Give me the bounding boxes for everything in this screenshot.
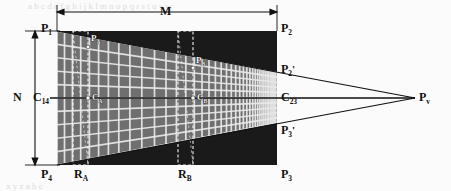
label-RB: RB bbox=[178, 168, 191, 183]
label-N: N bbox=[13, 91, 22, 103]
label-C23: C23 bbox=[281, 91, 297, 106]
point-PA bbox=[86, 45, 90, 49]
label-PB: PB bbox=[196, 56, 205, 67]
label-PA: PA bbox=[91, 34, 100, 45]
point-CA bbox=[86, 96, 90, 100]
label-CB: CB bbox=[197, 93, 207, 104]
point-CB bbox=[191, 96, 195, 100]
label-P3-prime: P3' bbox=[281, 124, 295, 139]
label-CA: CA bbox=[92, 93, 102, 104]
point-PB bbox=[191, 66, 195, 70]
label-P1: P1 bbox=[41, 22, 52, 37]
label-C14: C14 bbox=[33, 91, 49, 106]
label-Pv: Pv bbox=[419, 91, 430, 106]
label-P2-prime: P2' bbox=[281, 63, 295, 78]
label-RA: RA bbox=[74, 168, 88, 183]
label-P2: P2 bbox=[281, 22, 292, 37]
figure-canvas bbox=[0, 0, 451, 191]
label-M: M bbox=[160, 5, 171, 17]
label-P3: P3 bbox=[281, 168, 292, 183]
perspective-grid-figure: a b c d e f g h i j k l m n o p q r s t … bbox=[0, 0, 451, 191]
label-P4: P4 bbox=[41, 168, 52, 183]
